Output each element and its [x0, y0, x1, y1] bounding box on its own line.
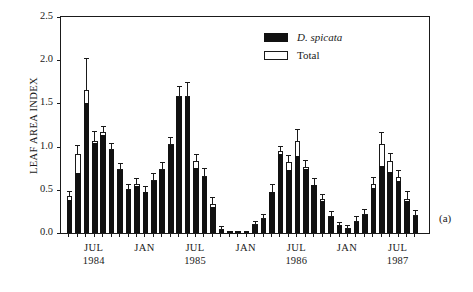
error-bar-cap [354, 216, 359, 217]
x-tick-mark [68, 233, 69, 237]
error-bar-cap [92, 131, 97, 132]
error-bar-cap [303, 160, 308, 161]
legend-label: Total [297, 49, 319, 61]
y-tick-mark [57, 190, 61, 191]
error-bar-stem [364, 210, 365, 214]
error-bar-cap [151, 173, 156, 174]
error-bar-stem [314, 179, 315, 184]
bar-group [210, 17, 216, 233]
bar-dspicata-segment [303, 169, 309, 233]
y-tick-mark [57, 147, 61, 148]
error-bar-stem [398, 171, 399, 177]
bar-dspicata-segment [117, 170, 123, 233]
bar-dspicata-segment [269, 192, 275, 233]
error-bar-stem [280, 147, 281, 151]
error-bar-stem [94, 132, 95, 142]
chart-legend: D. spicataTotal [264, 29, 394, 65]
bar-group [67, 17, 73, 233]
error-bar-stem [111, 144, 112, 149]
error-bar-stem [179, 87, 180, 96]
bar-group [176, 17, 182, 233]
bar-dspicata-segment [67, 200, 73, 233]
bar-group [227, 17, 233, 233]
x-tick-mark [195, 233, 196, 237]
error-bar-cap [168, 137, 173, 138]
error-bar-cap [75, 145, 80, 146]
error-bar-cap [295, 129, 300, 130]
error-bar-cap [388, 153, 393, 154]
error-bar-cap [253, 221, 258, 222]
error-bar-stem [390, 154, 391, 161]
y-axis-tick-labels: 0.00.51.01.52.02.5 [27, 0, 53, 292]
x-axis-label-year: 1985 [160, 254, 230, 267]
y-tick-label: 2.0 [27, 54, 53, 64]
error-bar-stem [407, 192, 408, 200]
error-bar-cap [286, 155, 291, 156]
bar-group [396, 17, 402, 233]
error-bar-stem [69, 192, 70, 195]
x-tick-mark [237, 233, 238, 237]
error-bar-cap [413, 210, 418, 211]
x-tick-mark [153, 233, 154, 237]
bar-dspicata-segment [134, 186, 140, 233]
bar-group [219, 17, 225, 233]
x-tick-mark [229, 233, 230, 237]
error-bar-cap [126, 184, 131, 185]
bar-dspicata-segment [202, 177, 208, 233]
bar-dspicata-segment [84, 103, 90, 233]
bar-group [84, 17, 90, 233]
error-bar-cap [67, 191, 72, 192]
error-bar-cap [134, 178, 139, 179]
x-axis-label-year: 1984 [59, 254, 129, 267]
bar-dspicata-segment [295, 156, 301, 233]
bar-dspicata-segment [210, 207, 216, 233]
bar-dspicata-segment [126, 190, 132, 233]
error-bar-stem [288, 156, 289, 162]
bar-group [252, 17, 258, 233]
error-bar-cap [379, 132, 384, 133]
error-bar-cap [337, 222, 342, 223]
error-bar-stem [120, 164, 121, 169]
bar-group [159, 17, 165, 233]
x-axis-label-year: 1986 [261, 254, 331, 267]
error-bar-cap [261, 214, 266, 215]
bar-dspicata-segment [362, 215, 368, 233]
error-bar-stem [187, 83, 188, 96]
legend-item: Total [264, 47, 394, 63]
bar-dspicata-segment [75, 173, 81, 233]
bar-group [151, 17, 157, 233]
bar-group [117, 17, 123, 233]
legend-item: D. spicata [264, 29, 394, 45]
bar-group [126, 17, 132, 233]
bar-group [143, 17, 149, 233]
x-tick-mark [203, 233, 204, 237]
error-bar-cap [202, 168, 207, 169]
bar-dspicata-segment [143, 192, 149, 233]
error-bar-cap [194, 154, 199, 155]
error-bar-stem [136, 179, 137, 183]
error-bar-cap [270, 184, 275, 185]
error-bar-stem [322, 195, 323, 199]
bar-dspicata-segment [404, 201, 410, 233]
bar-group [100, 17, 106, 233]
error-bar-stem [356, 217, 357, 220]
x-tick-mark [364, 233, 365, 237]
error-bar-stem [373, 178, 374, 184]
bar-group [75, 17, 81, 233]
error-bar-stem [153, 174, 154, 180]
x-tick-mark [389, 233, 390, 237]
x-tick-mark [398, 233, 399, 237]
error-bar-stem [170, 138, 171, 144]
legend-swatch-icon [264, 51, 288, 60]
bar-group [168, 17, 174, 233]
error-bar-stem [331, 212, 332, 215]
x-tick-mark [381, 233, 382, 237]
error-bar-stem [339, 223, 340, 226]
error-bar-stem [272, 185, 273, 191]
bar-dspicata-segment [193, 168, 199, 233]
error-bar-stem [103, 127, 104, 132]
bar-dspicata-segment [371, 188, 377, 233]
error-bar-stem [204, 169, 205, 176]
bar-dspicata-segment [387, 172, 393, 233]
plot-area: D. spicataTotal [60, 16, 430, 234]
